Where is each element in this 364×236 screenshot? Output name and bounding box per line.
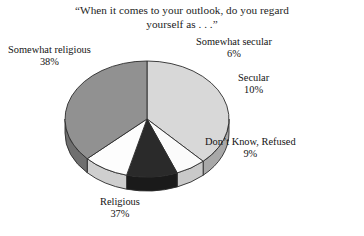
- pie-chart-figure: “When it comes to your outlook, do you r…: [0, 0, 364, 236]
- slice-label-name: Secular: [238, 72, 269, 83]
- slice-label-value: 10%: [238, 84, 269, 96]
- slice-label-name: Don’t Know, Refused: [205, 136, 296, 147]
- slice-label-name: Religious: [100, 196, 140, 207]
- pie-graphic: [0, 0, 364, 236]
- slice-label-name: Somewhat secular: [196, 36, 272, 47]
- slice-label-value: 37%: [100, 208, 140, 220]
- slice-label-value: 9%: [205, 148, 296, 160]
- slice-label-name: Somewhat religious: [8, 44, 91, 55]
- slice-label-somewhat-religious: Somewhat religious 38%: [8, 44, 91, 69]
- slice-label-value: 6%: [196, 48, 272, 60]
- slice-label-dont-know-refused: Don’t Know, Refused 9%: [205, 136, 296, 161]
- slice-label-secular: Secular 10%: [238, 72, 269, 97]
- slice-label-somewhat-secular: Somewhat secular 6%: [196, 36, 272, 61]
- slice-label-religious: Religious 37%: [100, 196, 140, 221]
- slice-label-value: 38%: [8, 56, 91, 68]
